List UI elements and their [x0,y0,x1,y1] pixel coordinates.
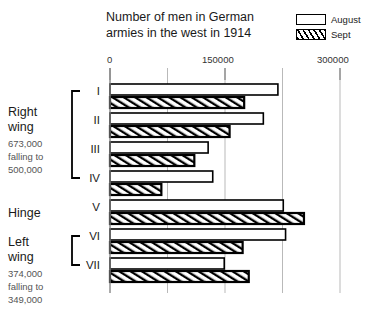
group-left-wing-name-line-2: wing [8,250,43,265]
group-left-wing-name: Left wing [8,235,43,265]
chart-title: Number of men in German armies in the we… [106,9,296,41]
group-right-wing-name-line-1: Right [8,105,43,120]
group-right-wing-sub-line-3: 500,000 [8,163,43,176]
bar-IV-august [110,171,213,182]
group-hinge-name-line-1: Hinge [8,206,41,221]
group-right-wing-sub-line-1: 673,000 [8,137,43,150]
group-left-wing-sub-line-2: falling to [8,280,43,293]
group-right-wing-subtext: 673,000 falling to 500,000 [8,137,43,176]
category-label-III: III [84,143,100,155]
group-right-wing-name: Right wing [8,105,43,135]
category-label-II: II [84,114,100,126]
legend-swatch-sept [296,29,326,40]
category-label-V: V [84,201,100,213]
legend-swatch-august [296,14,326,25]
group-hinge-name: Hinge [8,206,41,221]
legend-label-august: August [331,14,361,25]
category-label-VII: VII [84,259,100,271]
bar-II-sept [110,126,230,137]
group-left-wing-sub-line-3: 349,000 [8,293,43,306]
category-label-VI: VI [84,230,100,242]
bar-III-sept [110,155,194,166]
bar-IV-sept [110,184,161,195]
group-hinge: Hinge [8,206,41,221]
x-axis-tick-labels: 0 150000 300000 [0,54,375,68]
x-tick-label-150000: 150000 [202,54,234,65]
x-tick-label-300000: 300000 [317,54,349,65]
chart-header: Number of men in German armies in the we… [0,0,375,52]
group-right-wing-sub-line-2: falling to [8,150,43,163]
group-left-wing-name-line-1: Left [8,235,43,250]
category-label-IV: IV [84,172,100,184]
chart-title-line-2: armies in the west in 1914 [106,25,296,41]
group-left-wing-sub-line-1: 374,000 [8,267,43,280]
group-right-wing: Right wing 673,000 falling to 500,000 [8,105,43,176]
group-left-wing-subtext: 374,000 falling to 349,000 [8,267,43,306]
x-tick-label-0: 0 [107,54,112,65]
legend-item-august: August [296,12,375,26]
group-left-wing: Left wing 374,000 falling to 349,000 [8,235,43,306]
legend-item-sept: Sept [296,27,375,41]
chart-title-line-1: Number of men in German [106,9,296,25]
bar-III-august [110,142,208,153]
bar-VII-sept [110,271,249,282]
bar-I-august [110,84,278,95]
bar-V-august [110,200,283,211]
bar-I-sept [110,97,244,108]
bar-VI-august [110,229,286,240]
group-bracket [72,236,80,265]
group-bracket [72,91,80,178]
bar-V-sept [110,213,304,224]
chart-legend: August Sept [296,12,375,42]
group-right-wing-name-line-2: wing [8,120,43,135]
legend-label-sept: Sept [331,29,351,40]
bar-VII-august [110,258,224,269]
bar-II-august [110,113,263,124]
category-label-I: I [84,85,100,97]
bar-VI-sept [110,242,243,253]
